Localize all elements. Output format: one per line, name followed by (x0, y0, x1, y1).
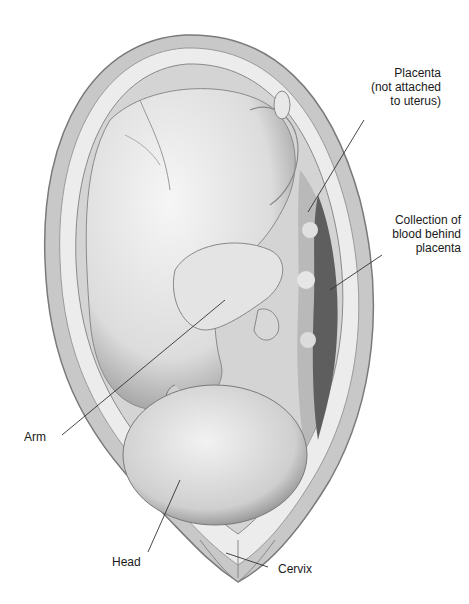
label-blood-collection: Collection of blood behind placenta (350, 213, 461, 255)
label-head: Head (112, 555, 141, 569)
label-arm: Arm (24, 430, 46, 444)
label-cervix: Cervix (278, 562, 312, 576)
label-placenta: Placenta (not attached to uterus) (330, 66, 441, 108)
